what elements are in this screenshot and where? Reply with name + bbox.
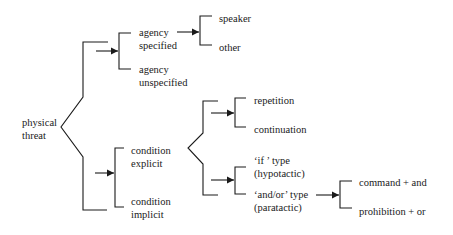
node-prohibition-or: prohibition + or <box>359 206 426 219</box>
node-text: agency <box>139 27 177 40</box>
node-text: ‘and/or’ type <box>254 189 308 202</box>
command-bracket <box>340 181 352 208</box>
node-text: condition <box>131 145 171 158</box>
node-if-type: ‘if ’ type (hypotactic) <box>254 155 305 180</box>
explicit-brace <box>188 101 218 195</box>
node-condition-implicit: condition implicit <box>131 196 171 221</box>
speaker-other-bracket <box>200 16 212 45</box>
node-command-and: command + and <box>359 177 427 190</box>
node-repetition: repetition <box>254 95 294 108</box>
node-condition-explicit: condition explicit <box>131 145 171 170</box>
node-speaker: speaker <box>219 13 251 26</box>
diagram-connectors <box>0 0 453 235</box>
root-brace <box>61 42 108 210</box>
agency-bracket <box>119 33 131 69</box>
condition-bracket <box>115 148 124 207</box>
node-continuation: continuation <box>254 124 307 137</box>
node-other: other <box>219 42 241 55</box>
node-text: (hypotactic) <box>254 168 305 181</box>
node-text: unspecified <box>139 77 187 90</box>
node-text: agency <box>139 64 187 77</box>
node-physical-threat: physical threat <box>22 117 57 142</box>
node-text: explicit <box>131 158 171 171</box>
node-text: condition <box>131 196 171 209</box>
node-agency-unspecified: agency unspecified <box>139 64 187 89</box>
node-and-or-type: ‘and/or’ type (paratactic) <box>254 189 308 214</box>
node-text: physical <box>22 117 57 130</box>
node-text: (paratactic) <box>254 202 308 215</box>
type-bracket <box>235 167 246 194</box>
repetition-bracket <box>235 98 246 127</box>
node-agency-specified: agency specified <box>139 27 177 52</box>
node-text: ‘if ’ type <box>254 155 305 168</box>
node-text: threat <box>22 130 57 143</box>
node-text: implicit <box>131 209 171 222</box>
node-text: specified <box>139 40 177 53</box>
